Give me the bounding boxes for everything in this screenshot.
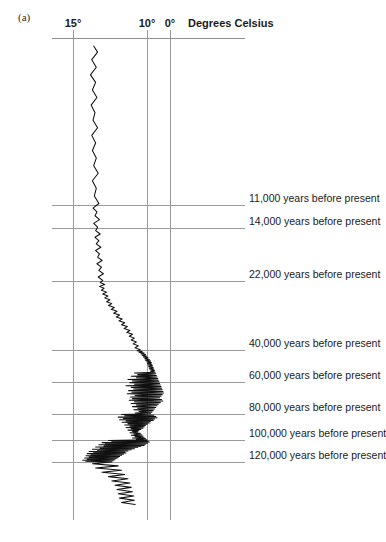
temperature-curve xyxy=(83,46,164,505)
timeline-label: 14,000 years before present xyxy=(249,215,380,227)
timeline-label: 22,000 years before present xyxy=(249,268,380,280)
timeline-label: 80,000 years before present xyxy=(249,401,380,413)
panel-label: (a) xyxy=(18,11,30,23)
timeline-label: 40,000 years before present xyxy=(249,337,380,349)
x-tick-label: 0° xyxy=(150,17,190,29)
axis-title: Degrees Celsius xyxy=(188,17,274,29)
timeline-label: 100,000 years before present xyxy=(249,427,386,439)
timeline-label: 11,000 years before present xyxy=(249,192,380,204)
horizontal-gridlines xyxy=(52,206,245,463)
timeline-label: 60,000 years before present xyxy=(249,369,380,381)
x-tick-label: 15° xyxy=(53,17,93,29)
timeline-label: 120,000 years before present xyxy=(249,449,386,461)
